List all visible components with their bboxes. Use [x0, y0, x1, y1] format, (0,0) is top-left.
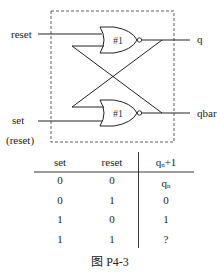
table-cell-set: 1 — [57, 233, 63, 245]
qbar-output-label: qbar — [197, 107, 217, 119]
table-cell-reset: 1 — [109, 233, 115, 245]
table-cell-next-state: ? — [164, 233, 169, 245]
sr-latch-figure: reset set (reset) #1 #1 q qbar set reset… — [0, 0, 217, 274]
set-alt-input-label: (reset) — [6, 134, 34, 147]
top-gate-inversion-bubble — [137, 38, 141, 42]
table-cell-reset: 1 — [109, 194, 115, 206]
table-cell-set: 0 — [57, 194, 63, 206]
q-output-label: q — [197, 33, 203, 45]
table-cell-next-state: 0 — [163, 194, 169, 206]
table-cell-set: 1 — [57, 213, 63, 225]
bottom-nor-gate: #1 — [100, 100, 142, 126]
table-header-set: set — [54, 156, 66, 168]
set-input-label: set — [12, 114, 24, 126]
truth-table: set reset qn+1 0 0 qn 0 1 0 1 0 1 1 1 ? — [34, 152, 194, 248]
top-gate-label: #1 — [113, 35, 123, 46]
table-header-reset: reset — [102, 156, 123, 168]
reset-input-label: reset — [11, 28, 32, 40]
table-cell-next-state: 1 — [163, 213, 169, 225]
bottom-gate-label: #1 — [113, 108, 123, 119]
table-cell-reset: 0 — [109, 174, 115, 186]
table-cell-next-state: qn — [162, 177, 172, 190]
figure-caption: 图 P4-3 — [91, 255, 129, 269]
top-nor-gate: #1 — [100, 27, 142, 53]
bottom-gate-inversion-bubble — [137, 111, 141, 115]
table-header-next-state: qn+1 — [156, 156, 177, 169]
table-cell-reset: 0 — [109, 213, 115, 225]
table-cell-set: 0 — [57, 174, 63, 186]
